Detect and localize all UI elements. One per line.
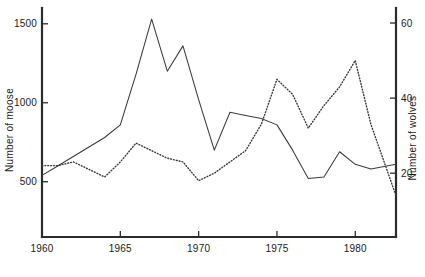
x-tick-label: 1975 [265, 243, 288, 254]
left-tick-label: 500 [20, 176, 38, 187]
series-line-moose [42, 19, 396, 179]
x-tick-label: 1980 [344, 243, 367, 254]
left-axis-title: Number of moose [4, 88, 15, 172]
right-tick-label: 60 [401, 18, 413, 29]
x-tick-label: 1960 [30, 243, 53, 254]
chart-container: 50010001500 204060 19601965197019751980 … [0, 0, 425, 277]
x-tick-label: 1965 [109, 243, 132, 254]
moose-wolves-line-chart: 50010001500 204060 19601965197019751980 … [0, 0, 425, 277]
series-line-wolves [42, 61, 396, 196]
x-tick-label: 1970 [187, 243, 210, 254]
left-tick-label: 1500 [14, 18, 37, 29]
left-tick-label: 1000 [14, 97, 37, 108]
x-axis-ticks: 19601965197019751980 [30, 231, 367, 254]
axis-lines [42, 8, 396, 237]
right-axis-title: Number of wolves [407, 96, 418, 181]
